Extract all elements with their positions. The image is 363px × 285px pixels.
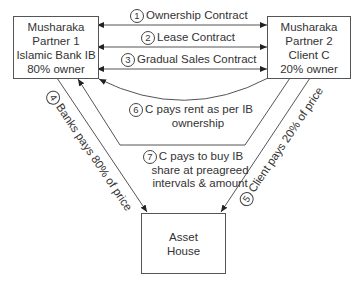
partner1-line-3: Islamic Bank IB xyxy=(16,48,95,62)
partner2-line-4: 20% owner xyxy=(280,62,338,76)
edge-6-number: 6 xyxy=(129,103,143,117)
edge-7-number: 7 xyxy=(143,150,157,164)
edge-6-line xyxy=(99,78,268,100)
partner1-line-1: Musharaka xyxy=(28,20,85,34)
edge-7-text-3: intervals & amount xyxy=(128,177,258,190)
node-asset: Asset House xyxy=(141,213,226,274)
asset-line-1: Asset xyxy=(169,230,198,244)
asset-line-2: House xyxy=(167,244,200,258)
edge-7-label: 7C pays to buy IB share at preagreed int… xyxy=(128,150,258,190)
partner2-line-2: Partner 2 xyxy=(285,34,332,48)
edge-1-label: 1Ownership Contract xyxy=(130,9,248,23)
edge-2-label: 2Lease Contract xyxy=(141,31,235,45)
partner2-line-3: Client C xyxy=(289,48,330,62)
edge-7-text-1: C pays to buy IB xyxy=(159,150,243,162)
edge-1-text: Ownership Contract xyxy=(146,9,248,21)
edge-3-text: Gradual Sales Contract xyxy=(137,53,257,65)
node-partner2: Musharaka Partner 2 Client C 20% owner xyxy=(267,16,351,79)
edge-1-number: 1 xyxy=(130,9,144,23)
edge-3-number: 3 xyxy=(121,53,135,67)
partner1-line-2: Partner 1 xyxy=(32,34,79,48)
edge-6-text-2: ownership xyxy=(126,117,256,130)
edge-6-text-1: C pays rent as per IB xyxy=(145,103,253,115)
edge-2-text: Lease Contract xyxy=(157,31,235,43)
node-partner1: Musharaka Partner 1 Islamic Bank IB 80% … xyxy=(13,16,99,79)
partner1-line-4: 80% owner xyxy=(27,62,85,76)
edge-3-label: 3Gradual Sales Contract xyxy=(121,53,257,67)
partner2-line-1: Musharaka xyxy=(281,20,338,34)
edge-2-number: 2 xyxy=(141,31,155,45)
edge-6-label: 6C pays rent as per IB ownership xyxy=(126,103,256,130)
edge-7-text-2: share at preagreed xyxy=(128,164,258,177)
